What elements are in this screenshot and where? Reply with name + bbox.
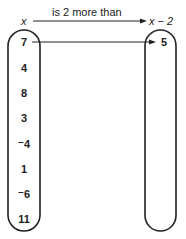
domain-oval — [8, 30, 40, 231]
domain-value: 8 — [14, 87, 34, 99]
domain-value: ⁻4 — [14, 138, 34, 150]
codomain-label: x − 2 — [149, 15, 173, 27]
domain-value: 7 — [14, 36, 34, 48]
codomain-oval — [145, 30, 176, 231]
domain-value: 1 — [14, 163, 34, 175]
domain-value: 3 — [14, 112, 34, 124]
relation-label: is 2 more than — [52, 6, 122, 18]
domain-value: 4 — [14, 62, 34, 74]
domain-value: 11 — [14, 213, 34, 225]
domain-value: ⁻6 — [14, 188, 34, 200]
codomain-value: 5 — [154, 36, 174, 48]
domain-label: x — [21, 15, 27, 27]
relation-arrowhead-icon — [140, 19, 147, 24]
